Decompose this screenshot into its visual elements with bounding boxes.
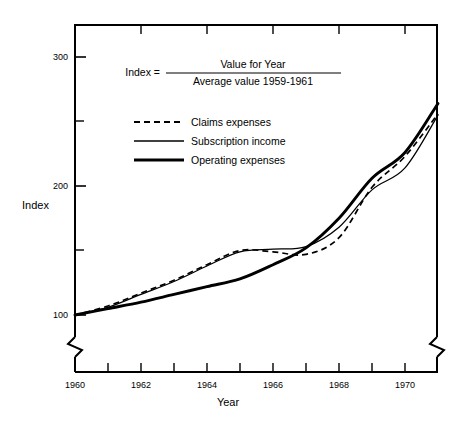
top-border-ticks <box>141 25 405 34</box>
y-axis-tick-labels: 300 200 100 <box>53 52 68 320</box>
y-tick-label-100: 100 <box>53 310 68 320</box>
legend-label-operating-expenses: Operating expenses <box>191 154 285 166</box>
formula-denominator: Average value 1959-1961 <box>193 75 313 87</box>
y-axis-break-right <box>430 337 444 357</box>
line-chart-canvas: 300 200 100 Index 1 <box>0 0 458 426</box>
legend-label-subscription-income: Subscription income <box>191 135 286 147</box>
y-axis-title: Index <box>22 199 49 211</box>
y-tick-label-200: 200 <box>53 181 68 191</box>
x-tick-label-1964: 1964 <box>197 380 217 390</box>
x-axis-ticks <box>108 363 405 372</box>
x-axis-title: Year <box>217 396 240 408</box>
x-tick-label-1960: 1960 <box>65 380 85 390</box>
chart-figure: 300 200 100 Index 1 <box>0 0 458 426</box>
formula-prefix: Index = <box>125 66 160 78</box>
index-formula-annotation: Index = Value for Year Average value 195… <box>125 58 341 87</box>
legend-label-claims-expenses: Claims expenses <box>191 116 271 128</box>
x-axis-tick-labels: 1960 1962 1964 1966 1968 1970 <box>65 380 415 390</box>
y-axis-ticks <box>75 57 86 315</box>
x-tick-label-1970: 1970 <box>395 380 415 390</box>
y-axis-break-left <box>68 337 82 357</box>
x-tick-label-1966: 1966 <box>263 380 283 390</box>
y-tick-label-300: 300 <box>53 52 68 62</box>
chart-legend: Claims expenses Subscription income Oper… <box>134 116 286 166</box>
formula-numerator: Value for Year <box>220 58 286 70</box>
x-tick-label-1962: 1962 <box>131 380 151 390</box>
x-tick-label-1968: 1968 <box>329 380 349 390</box>
